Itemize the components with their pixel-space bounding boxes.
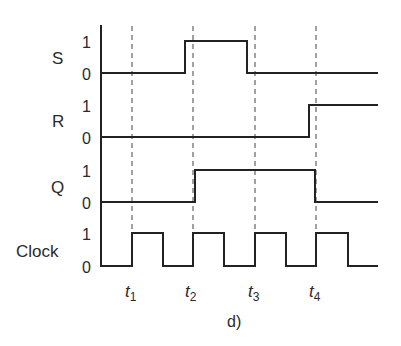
level-label-s-low: 0 [82,66,91,83]
time-marker-t3: t3 [248,282,260,304]
level-label-r-low: 0 [82,130,91,147]
signal-label-q: Q [51,178,64,197]
time-marker-t4: t4 [309,282,321,304]
signal-label-r: R [52,112,64,131]
timing-diagram: S R Q Clock 1 0 1 0 1 0 1 0 t1 t2 t3 t4 … [0,0,401,346]
level-label-r-high: 1 [82,98,91,115]
waveform-r [101,105,378,137]
waveforms [101,41,378,266]
waveform-q [101,170,378,202]
level-label-q-high: 1 [82,163,91,180]
signal-label-clock: Clock [16,242,59,261]
time-marker-t1: t1 [125,282,137,304]
time-marker-t2: t2 [185,282,197,304]
level-labels: 1 0 1 0 1 0 1 0 [82,34,91,276]
level-label-clock-low: 0 [82,259,91,276]
level-label-s-high: 1 [82,34,91,51]
signal-label-s: S [52,49,63,68]
time-guides [132,26,316,266]
waveform-clock [101,233,378,266]
waveform-s [101,41,378,73]
time-markers: t1 t2 t3 t4 [125,282,321,304]
level-label-q-low: 0 [82,195,91,212]
level-label-clock-high: 1 [82,226,91,243]
signal-labels: S R Q Clock [16,49,64,261]
figure-caption: d) [227,313,241,330]
